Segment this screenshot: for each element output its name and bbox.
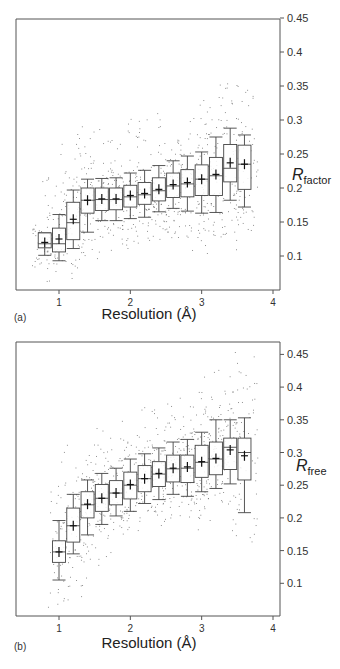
y-tick-label: 0.15 (287, 545, 308, 557)
y-axis-label-b: Rfree (296, 457, 327, 477)
y-tick-label: 0.45 (287, 348, 308, 360)
box-1 (53, 521, 66, 581)
box-2.2 (138, 170, 151, 217)
box-3.4 (224, 128, 237, 200)
box-1.2 (67, 190, 80, 248)
y-axis-label-a: Rfactor (292, 166, 331, 186)
x-tick-label: 1 (56, 623, 62, 634)
y-tick-label: 0.25 (287, 148, 308, 160)
box-3.4 (224, 420, 237, 484)
box-2.6 (167, 161, 180, 209)
box-1.6 (95, 473, 108, 524)
panel-label-b: (b) (14, 641, 26, 652)
y-tick-label: 0.35 (287, 80, 308, 92)
box-3.2 (209, 137, 222, 212)
panel-b: 12340.10.150.20.250.30.350.40.45 (b) Res… (0, 335, 340, 669)
y-axis-label-main: R (296, 457, 308, 474)
box-0.8 (38, 233, 51, 255)
box-2.4 (152, 166, 165, 212)
box-1.2 (67, 494, 80, 554)
box-1.4 (81, 179, 94, 232)
box-2.8 (181, 439, 194, 496)
x-tick-label: 2 (128, 623, 134, 634)
box-2.6 (167, 442, 180, 494)
x-axis-label-b: Resolution (Å) (49, 634, 249, 651)
y-axis-label-sub: free (308, 465, 327, 477)
y-tick-label: 0.1 (287, 577, 302, 589)
box-3.2 (209, 420, 222, 489)
boxplot-rfree: 12340.10.150.20.250.30.350.40.45 (0, 335, 340, 669)
x-tick-label: 4 (270, 297, 276, 308)
box-3.6 (238, 418, 251, 513)
box-1.6 (95, 178, 108, 220)
box-1.4 (81, 480, 94, 535)
y-axis-label-main: R (292, 166, 304, 183)
x-axis-label-a: Resolution (Å) (49, 305, 249, 322)
y-tick-label: 0.45 (287, 12, 308, 24)
box-1.8 (110, 468, 123, 516)
y-tick-label: 0.3 (287, 114, 302, 126)
y-tick-label: 0.4 (287, 46, 302, 58)
box-2.4 (152, 448, 165, 500)
y-axis-label-sub: factor (304, 174, 332, 186)
x-tick-label: 4 (270, 623, 276, 634)
panel-label-a: (a) (14, 312, 26, 323)
box-2 (124, 459, 137, 511)
box-3 (195, 152, 208, 213)
y-tick-label: 0.4 (287, 381, 302, 393)
panel-a: 12340.10.150.20.250.30.350.40.45 (a) Res… (0, 0, 340, 335)
y-tick-label: 0.25 (287, 479, 308, 491)
box-1 (53, 215, 66, 261)
y-tick-label: 0.1 (287, 250, 302, 262)
box-1.8 (110, 178, 123, 221)
box-2 (124, 173, 137, 219)
y-tick-label: 0.35 (287, 414, 308, 426)
y-tick-label: 0.15 (287, 216, 308, 228)
box-3 (195, 432, 208, 492)
box-2.2 (138, 454, 151, 504)
y-tick-label: 0.2 (287, 512, 302, 524)
x-tick-label: 3 (199, 623, 205, 634)
boxplot-rfactor: 12340.10.150.20.250.30.350.40.45 (0, 0, 340, 335)
